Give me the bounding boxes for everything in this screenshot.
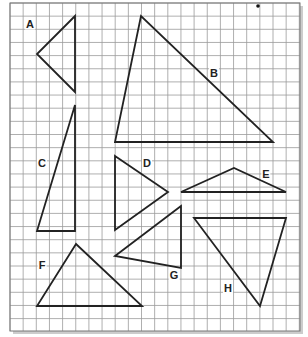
triangle-grid-figure: ABCDEFGH — [0, 0, 308, 337]
stray-dot — [256, 4, 260, 8]
triangle-label-g: G — [169, 270, 180, 281]
triangle-label-f: F — [38, 260, 47, 271]
triangle-label-a: A — [25, 19, 35, 30]
triangle-label-e: E — [261, 169, 270, 180]
triangle-label-d: D — [142, 158, 152, 169]
triangle-label-c: C — [37, 158, 47, 169]
triangle-label-b: B — [209, 68, 219, 79]
triangle-label-h: H — [223, 283, 233, 294]
